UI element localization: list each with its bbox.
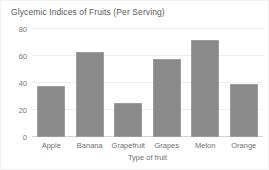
y-axis-tick-label: 60 xyxy=(19,52,27,61)
x-axis-tick-label: Melon xyxy=(195,141,215,150)
bar-slot: Melon xyxy=(186,29,224,137)
y-axis-tick-label: 0 xyxy=(23,133,27,142)
bar-slot: Apple xyxy=(32,29,70,137)
x-axis-tick-label: Grapefruit xyxy=(112,141,145,150)
bar-orange xyxy=(230,84,258,137)
bar-slot: Grapes xyxy=(148,29,186,137)
plot-area: 020406080 AppleBananaGrapefruitGrapesMel… xyxy=(32,29,263,137)
x-axis-tick-label: Apple xyxy=(42,141,61,150)
bar-grapefruit xyxy=(114,103,142,137)
bar-slot: Banana xyxy=(71,29,109,137)
y-axis-tick-label: 80 xyxy=(19,25,27,34)
bar-series: AppleBananaGrapefruitGrapesMelonOrange xyxy=(32,29,263,137)
bar-grapes xyxy=(153,59,181,137)
y-axis-tick-label: 40 xyxy=(19,79,27,88)
chart-title: Glycemic Indices of Fruits (Per Serving) xyxy=(11,7,165,17)
bar-slot: Grapefruit xyxy=(109,29,147,137)
bar-slot: Orange xyxy=(225,29,263,137)
bar-melon xyxy=(191,40,219,137)
bar-banana xyxy=(76,52,104,137)
x-axis-tick-label: Grapes xyxy=(154,141,179,150)
bar-apple xyxy=(37,86,65,137)
x-axis-title: Type of fruit xyxy=(32,153,263,162)
y-axis-tick-label: 20 xyxy=(19,106,27,115)
x-axis-tick-label: Orange xyxy=(231,141,256,150)
chart-figure: Glycemic Indices of Fruits (Per Serving)… xyxy=(0,0,269,170)
x-axis-tick-label: Banana xyxy=(77,141,103,150)
